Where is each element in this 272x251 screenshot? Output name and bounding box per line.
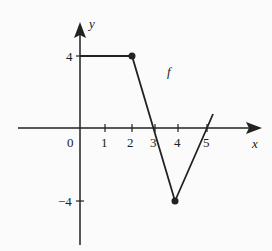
y-tick-label-neg4: −4 <box>58 194 72 209</box>
origin-label: 0 <box>67 135 74 150</box>
x-tick-label-1: 1 <box>101 135 108 150</box>
point-4-neg4 <box>172 198 179 205</box>
function-graph: y x f 0 1 2 3 4 5 4 −4 <box>0 0 272 251</box>
y-axis-label: y <box>87 16 95 31</box>
function-label: f <box>167 64 173 79</box>
x-tick-label-2: 2 <box>127 135 134 150</box>
y-tick-label-4: 4 <box>66 49 73 64</box>
x-tick-label-5: 5 <box>203 135 210 150</box>
x-tick-label-3: 3 <box>150 135 157 150</box>
point-2-4 <box>129 53 136 60</box>
x-axis-label: x <box>251 136 258 151</box>
x-tick-label-4: 4 <box>174 135 181 150</box>
